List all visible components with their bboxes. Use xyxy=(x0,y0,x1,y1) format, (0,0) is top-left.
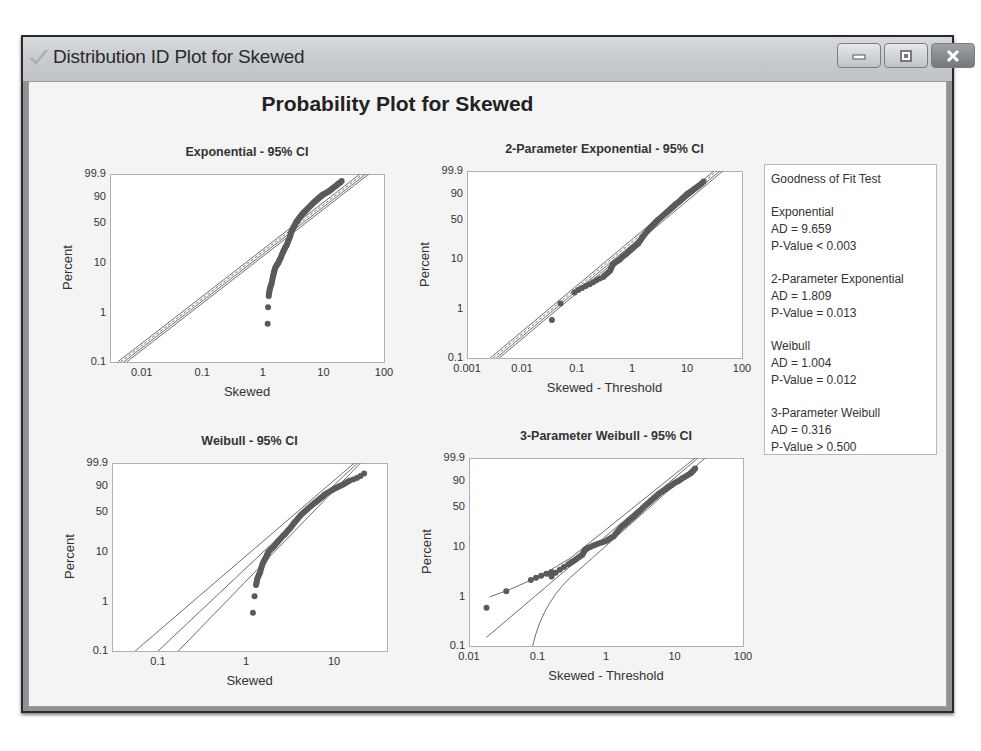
gof-dist-name: Exponential xyxy=(771,204,930,221)
x-tick-label: 100 xyxy=(364,366,404,378)
gof-dist-name: 3-Parameter Weibull xyxy=(771,405,930,422)
y-tick-label: 90 xyxy=(435,474,465,486)
probability-plot-4 xyxy=(469,458,745,648)
y-tick-label: 1 xyxy=(78,595,108,607)
gof-title: Goodness of Fit Test xyxy=(771,171,930,188)
x-tick-label: 0.001 xyxy=(447,362,487,374)
close-button[interactable] xyxy=(931,43,975,68)
close-icon xyxy=(946,49,960,63)
distribution-id-plot-window: Distribution ID Plot for Skewed Probabil… xyxy=(21,35,954,713)
gof-p-value: P-Value > 0.500 xyxy=(771,439,930,456)
gof-exponential: Exponential AD = 9.659 P-Value < 0.003 xyxy=(771,204,930,255)
window-title: Distribution ID Plot for Skewed xyxy=(53,46,304,68)
x-axis-label: Skewed xyxy=(112,673,387,688)
y-tick-label: 50 xyxy=(435,500,465,512)
y-axis-label: Percent xyxy=(417,234,432,294)
gof-weibull: Weibull AD = 1.004 P-Value = 0.012 xyxy=(771,338,930,389)
x-tick-label: 10 xyxy=(655,650,695,662)
y-tick-label: 99.9 xyxy=(433,164,463,176)
y-tick-label: 10 xyxy=(76,256,106,268)
y-tick-label: 99.9 xyxy=(435,451,465,463)
gof-ad-value: AD = 1.809 xyxy=(771,288,930,305)
x-tick-label: 0.1 xyxy=(138,655,178,667)
plot-title: Exponential - 95% CI xyxy=(90,145,404,159)
x-axis-label: Skewed xyxy=(110,384,384,399)
title-bar[interactable]: Distribution ID Plot for Skewed xyxy=(23,37,952,81)
y-tick-label: 10 xyxy=(435,540,465,552)
gof-p-value: P-Value = 0.012 xyxy=(771,372,930,389)
x-tick-label: 0.01 xyxy=(122,366,162,378)
x-tick-label: 0.01 xyxy=(449,650,489,662)
maximize-icon xyxy=(899,49,913,63)
x-axis-label: Skewed - Threshold xyxy=(467,380,742,395)
gof-p-value: P-Value < 0.003 xyxy=(771,238,930,255)
y-tick-label: 0.1 xyxy=(78,644,108,656)
graph-area: Probability Plot for Skewed Exponential … xyxy=(28,81,947,707)
y-tick-label: 99.9 xyxy=(78,456,108,468)
probability-plot-3 xyxy=(112,463,389,653)
y-tick-label: 90 xyxy=(433,187,463,199)
x-tick-label: 10 xyxy=(303,366,343,378)
x-tick-label: 0.1 xyxy=(518,650,558,662)
maximize-button[interactable] xyxy=(884,43,928,68)
y-tick-label: 90 xyxy=(76,190,106,202)
y-tick-label: 90 xyxy=(78,479,108,491)
y-tick-label: 50 xyxy=(76,216,106,228)
gof-dist-name: Weibull xyxy=(771,338,930,355)
x-tick-label: 1 xyxy=(243,366,283,378)
x-tick-label: 1 xyxy=(612,362,652,374)
y-axis-label: Percent xyxy=(62,527,77,587)
y-axis-label: Percent xyxy=(419,522,434,582)
minimize-icon xyxy=(852,52,866,60)
plot-title: 3-Parameter Weibull - 95% CI xyxy=(449,429,763,443)
y-tick-label: 99.9 xyxy=(76,167,106,179)
minimize-button[interactable] xyxy=(837,43,881,68)
main-chart-title: Probability Plot for Skewed xyxy=(29,92,946,116)
gof-ad-value: AD = 1.004 xyxy=(771,355,930,372)
gof-2-parameter-exponential: 2-Parameter Exponential AD = 1.809 P-Val… xyxy=(771,271,930,322)
gof-p-value: P-Value = 0.013 xyxy=(771,305,930,322)
goodness-of-fit-panel: Goodness of Fit Test Exponential AD = 9.… xyxy=(764,164,937,455)
checkmark-icon xyxy=(29,47,49,67)
y-tick-label: 1 xyxy=(435,590,465,602)
x-tick-label: 0.1 xyxy=(557,362,597,374)
y-tick-label: 1 xyxy=(433,302,463,314)
x-tick-label: 0.01 xyxy=(502,362,542,374)
x-tick-label: 1 xyxy=(586,650,626,662)
x-tick-label: 10 xyxy=(667,362,707,374)
x-tick-label: 0.1 xyxy=(182,366,222,378)
y-axis-label: Percent xyxy=(60,238,75,298)
y-tick-label: 50 xyxy=(433,213,463,225)
plot-title: Weibull - 95% CI xyxy=(92,434,407,448)
y-tick-label: 10 xyxy=(433,252,463,264)
probability-plot-2 xyxy=(467,171,744,360)
gof-ad-value: AD = 9.659 xyxy=(771,221,930,238)
y-tick-label: 1 xyxy=(76,306,106,318)
y-tick-label: 10 xyxy=(78,545,108,557)
y-tick-label: 0.1 xyxy=(76,355,106,367)
x-tick-label: 100 xyxy=(722,362,762,374)
gof-ad-value: AD = 0.316 xyxy=(771,422,930,439)
x-tick-label: 100 xyxy=(723,650,763,662)
x-axis-label: Skewed - Threshold xyxy=(469,668,743,683)
x-tick-label: 1 xyxy=(226,655,266,667)
plot-title: 2-Parameter Exponential - 95% CI xyxy=(447,142,762,156)
gof-3-parameter-weibull: 3-Parameter Weibull AD = 0.316 P-Value >… xyxy=(771,405,930,456)
y-tick-label: 50 xyxy=(78,505,108,517)
gof-dist-name: 2-Parameter Exponential xyxy=(771,271,930,288)
probability-plot-1 xyxy=(110,174,386,364)
x-tick-label: 10 xyxy=(314,655,354,667)
